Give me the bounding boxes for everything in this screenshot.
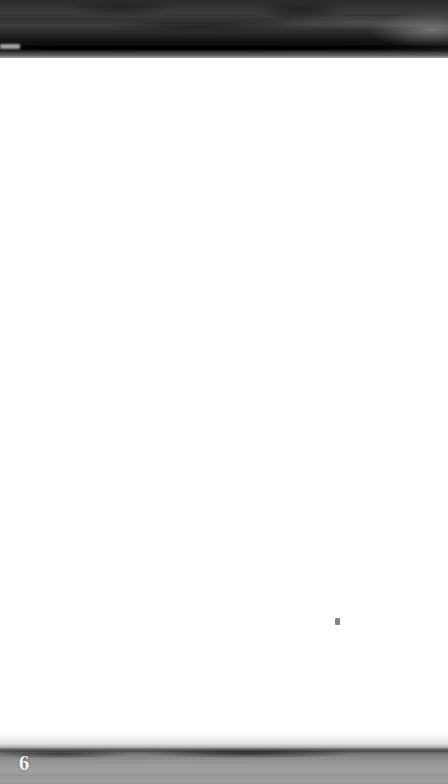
scanned-page: 6 xyxy=(0,0,448,784)
paper-grain-texture xyxy=(0,58,448,748)
top-band-dark-edge-line xyxy=(0,46,448,50)
page-body xyxy=(0,58,448,748)
bottom-band-streak-texture xyxy=(0,748,448,784)
ink-speck-artifact xyxy=(335,618,340,625)
top-band-light-nick xyxy=(0,44,20,49)
top-shadow-band xyxy=(0,0,448,58)
page-number-folio: 6 xyxy=(17,751,31,775)
bottom-shadow-band xyxy=(0,748,448,784)
